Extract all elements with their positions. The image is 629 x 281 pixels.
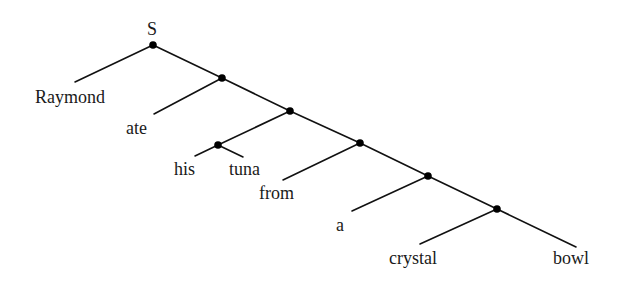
edge-s-n1	[153, 45, 222, 78]
syntax-tree-diagram: S Raymond ate his tuna from a crystal bo…	[0, 0, 629, 281]
node-n4	[424, 172, 432, 180]
edge-np-tuna	[218, 145, 243, 157]
edge-n2-n3	[290, 111, 360, 143]
edge-n3-from	[283, 143, 360, 180]
word-crystal: crystal	[389, 249, 437, 267]
word-bowl: bowl	[553, 249, 589, 267]
edge-n5-bowl	[497, 209, 576, 247]
edge-n1-ate	[154, 78, 222, 114]
tree-edges	[0, 0, 629, 281]
node-n3	[356, 139, 364, 147]
node-n5	[493, 205, 501, 213]
edge-s-raymond	[75, 45, 153, 82]
edge-n4-n5	[428, 176, 497, 209]
edge-n5-crystal	[420, 209, 497, 244]
word-a: a	[336, 216, 344, 234]
word-from: from	[259, 184, 294, 202]
edge-n4-a	[352, 176, 428, 211]
node-root	[149, 41, 157, 49]
edge-n1-n2	[222, 78, 290, 111]
edge-n3-n4	[360, 143, 428, 176]
root-label: S	[147, 20, 157, 38]
node-np	[214, 141, 222, 149]
edge-np-his	[195, 145, 218, 156]
word-ate: ate	[126, 119, 147, 137]
node-n1	[218, 74, 226, 82]
node-n2	[286, 107, 294, 115]
word-raymond: Raymond	[35, 88, 105, 106]
word-tuna: tuna	[229, 160, 260, 178]
word-his: his	[174, 160, 195, 178]
edge-n2-np	[218, 111, 290, 145]
